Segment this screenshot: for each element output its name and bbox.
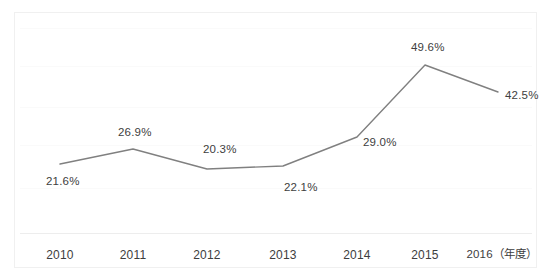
gridline — [20, 28, 532, 29]
x-tick-label-2011: 2011 — [120, 249, 147, 261]
x-tick-label-2014: 2014 — [343, 249, 371, 261]
line-chart: 21.6%26.9%20.3%22.1%29.0%49.6%42.5% 2010… — [0, 0, 554, 280]
x-tick-label-2010: 2010 — [46, 249, 74, 261]
data-label-2012: 20.3% — [203, 144, 237, 156]
x-tick-label-2013: 2013 — [269, 249, 297, 261]
x-tick-label-2012: 2012 — [193, 249, 221, 261]
gridline — [20, 107, 532, 108]
data-label-2016: 42.5% — [505, 90, 539, 102]
data-label-2015: 49.6% — [411, 42, 445, 54]
x-tick-label-2016: 2016（年度） — [466, 249, 537, 261]
gridline — [20, 66, 532, 67]
data-label-2010: 21.6% — [46, 176, 80, 188]
gridline — [20, 188, 532, 189]
plot-area — [20, 18, 532, 234]
data-label-2013: 22.1% — [284, 182, 318, 194]
x-axis-line — [20, 233, 532, 234]
gridline — [20, 145, 532, 146]
data-label-2014: 29.0% — [363, 137, 397, 149]
data-label-2011: 26.9% — [118, 127, 152, 139]
x-tick-label-2015: 2015 — [411, 249, 439, 261]
